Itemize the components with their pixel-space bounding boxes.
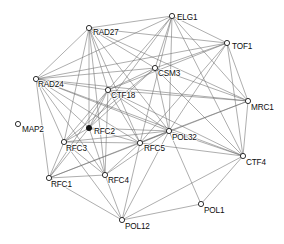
graph-edge [36, 28, 89, 79]
graph-node-csm3[interactable] [152, 65, 157, 70]
graph-edge [155, 68, 243, 156]
graph-node-label-rfc4: RFC4 [108, 176, 129, 185]
labels-layer: ELG1RAD27TOF1CSM3RAD24CTF18MRC1MAP2RFC2P… [22, 13, 274, 231]
graph-node-ctf18[interactable] [105, 87, 110, 92]
graph-node-label-ctf18: CTF18 [111, 91, 136, 100]
graph-node-rfc2[interactable] [86, 125, 91, 130]
graph-node-mrc1[interactable] [245, 98, 250, 103]
edges-layer [36, 16, 248, 220]
nodes-layer [15, 13, 250, 222]
graph-node-label-mrc1: MRC1 [251, 103, 274, 112]
graph-node-label-pol1: POL1 [204, 206, 225, 215]
graph-node-label-rfc1: RFC1 [51, 180, 72, 189]
graph-node-rfc5[interactable] [137, 140, 142, 145]
graph-node-label-pol32: POL32 [172, 133, 197, 142]
graph-node-label-rfc5: RFC5 [144, 144, 165, 153]
graph-edge [64, 142, 140, 143]
graph-node-rfc4[interactable] [102, 172, 107, 177]
graph-node-label-rad27: RAD27 [93, 28, 119, 37]
graph-node-ctf4[interactable] [240, 153, 245, 158]
graph-node-pol12[interactable] [119, 217, 124, 222]
graph-edge [49, 142, 64, 178]
graph-edge [201, 156, 243, 204]
graph-node-label-rad24: RAD24 [38, 80, 64, 89]
graph-node-label-ctf4: CTF4 [246, 158, 266, 167]
graph-edge [108, 68, 155, 90]
graph-node-rad27[interactable] [86, 25, 91, 30]
graph-node-elg1[interactable] [169, 13, 174, 18]
network-graph-svg: ELG1RAD27TOF1CSM3RAD24CTF18MRC1MAP2RFC2P… [0, 0, 284, 244]
graph-edge [169, 43, 227, 131]
graph-edge [122, 156, 243, 220]
graph-edge [227, 43, 248, 101]
graph-edge [243, 101, 248, 156]
graph-edge [36, 43, 227, 79]
graph-edge [64, 131, 169, 142]
graph-node-map2[interactable] [15, 121, 20, 126]
graph-node-label-pol12: POL12 [125, 222, 150, 231]
graph-edge [105, 143, 140, 175]
graph-node-label-tof1: TOF1 [232, 42, 253, 51]
graph-edge [49, 175, 105, 178]
graph-edge [122, 204, 201, 220]
graph-edge [155, 16, 172, 68]
graph-edge [172, 16, 248, 101]
graph-node-pol1[interactable] [198, 201, 203, 206]
graph-node-label-map2: MAP2 [22, 125, 44, 134]
graph-node-label-elg1: ELG1 [177, 13, 198, 22]
graph-node-pol32[interactable] [166, 128, 171, 133]
graph-edge [89, 28, 108, 90]
graph-edge [36, 68, 155, 79]
graph-node-label-rfc2: RFC2 [94, 127, 115, 136]
network-graph-canvas: ELG1RAD27TOF1CSM3RAD24CTF18MRC1MAP2RFC2P… [0, 0, 284, 244]
graph-node-tof1[interactable] [224, 40, 229, 45]
graph-node-label-rfc3: RFC3 [66, 144, 87, 153]
graph-node-label-csm3: CSM3 [158, 69, 181, 78]
